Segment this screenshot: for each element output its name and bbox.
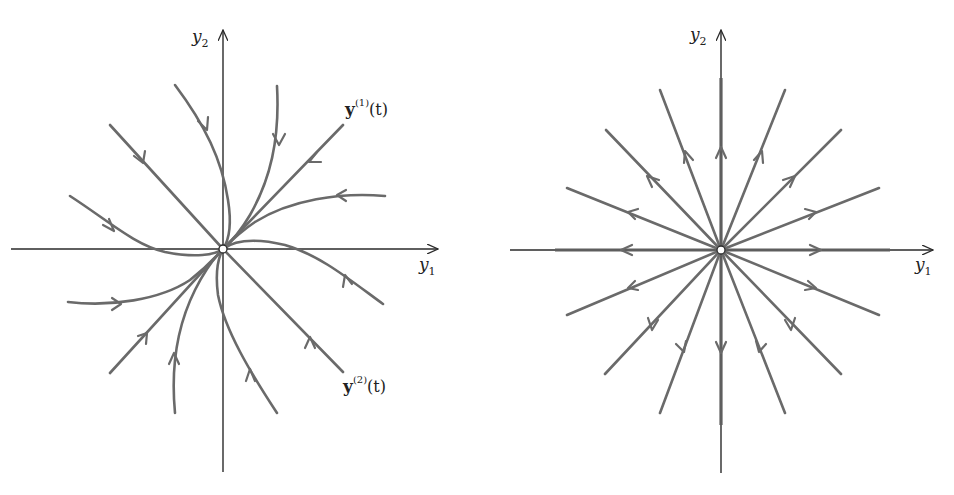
trajectory [660, 90, 721, 250]
trajectory [721, 188, 879, 250]
trajectory [721, 250, 785, 413]
arrow-icon [305, 337, 315, 348]
arrow-icon [756, 341, 766, 352]
trajectory-y1 [223, 125, 343, 249]
arrow-icon [647, 176, 659, 187]
arrow-icon [246, 369, 255, 381]
trajectory [721, 250, 879, 315]
arrow-icon [343, 275, 352, 287]
right-y2-axis-label: y2 [689, 24, 707, 48]
trajectory [110, 249, 223, 373]
trajectory [567, 250, 721, 315]
trajectory [721, 130, 841, 250]
right-y1-axis-label: y1 [914, 254, 932, 278]
trajectory [605, 250, 721, 374]
trajectory [721, 90, 785, 250]
left-y2-axis-label: y2 [191, 26, 209, 50]
arrow-icon [676, 341, 686, 352]
trajectory [721, 250, 841, 374]
trajectory [175, 85, 230, 249]
right-origin-critical-point [717, 246, 725, 254]
right-phase-portrait: y2 y1 [510, 24, 933, 473]
left-origin-critical-point [219, 245, 227, 253]
phase-portrait-figure: y2 y1 y(1)(t) y(2)(t) [0, 0, 954, 495]
trajectory [660, 250, 721, 413]
trajectory [567, 188, 721, 250]
left-y1-axis-label: y1 [418, 254, 436, 278]
eigen-solution-y1-label: y(1)(t) [344, 97, 388, 119]
trajectory [606, 130, 721, 250]
left-phase-portrait: y2 y1 y(1)(t) y(2)(t) [11, 26, 438, 472]
trajectory [110, 125, 223, 249]
eigen-solution-y2-label: y(2)(t) [342, 374, 386, 396]
